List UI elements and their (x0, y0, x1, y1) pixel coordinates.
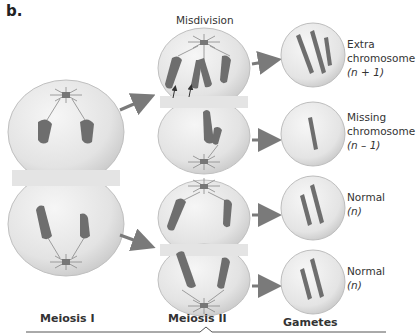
gamete-missing-chromosome (281, 102, 345, 166)
gamete-label-line1: Normal (347, 190, 385, 204)
gamete-label-line1: Missing (347, 110, 415, 124)
gamete-label-line2: chromosome (347, 124, 415, 138)
arrow-to-misdivision (120, 97, 150, 110)
gamete-label-line2: chromosome (347, 51, 415, 65)
stage-label-meiosis-ii: Meiosis II (168, 312, 227, 325)
gamete-label-normal-1: Normal (n) (347, 190, 385, 218)
stage-label-gametes: Gametes (283, 316, 338, 329)
meiosis-ii-misdivision-cell (158, 28, 250, 174)
gamete-label-line1: Normal (347, 264, 385, 278)
gamete-normal-1 (281, 176, 345, 240)
meiosis-i-cell (8, 80, 124, 276)
gamete-normal-2 (281, 250, 345, 314)
gamete-label-extra: Extra chromosome (n + 1) (347, 37, 415, 79)
meiosis-ii-normal-cell (158, 178, 250, 316)
arrow-to-normal-division (120, 235, 150, 246)
gamete-formula: (n + 1) (347, 65, 415, 79)
arrow-to-gamete-1 (252, 60, 276, 64)
stage-label-meiosis-i: Meiosis I (40, 312, 95, 325)
gamete-label-normal-2: Normal (n) (347, 264, 385, 292)
gamete-extra-chromosome (281, 23, 345, 87)
gamete-formula: (n) (347, 204, 385, 218)
gamete-label-line1: Extra (347, 37, 415, 51)
gamete-formula: (n – 1) (347, 138, 415, 152)
gamete-formula: (n) (347, 278, 385, 292)
gamete-label-missing: Missing chromosome (n – 1) (347, 110, 415, 152)
